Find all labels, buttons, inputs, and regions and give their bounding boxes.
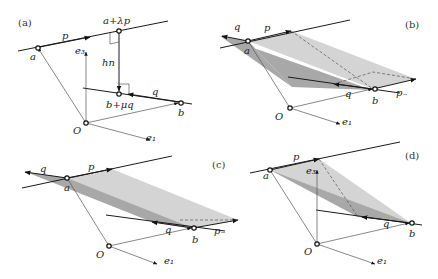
vector-ob [290,89,372,108]
label-p: p [88,161,95,172]
label-e3: e₃ [306,165,316,176]
label-a: a [263,170,269,181]
label-q: q [234,21,240,32]
panel-b: (b) q p a q b p₋ O e₁ [220,19,419,127]
label-b-mu-q: b+μq [106,99,134,110]
point-a-lambda-p [117,29,121,33]
label-e1: e₁ [377,255,387,266]
label-q2: q [165,224,171,235]
point-b [192,226,196,230]
label-a: a [64,182,70,193]
label-origin: O [96,249,104,260]
label-e3: e₃ [75,45,85,56]
e1-axis [109,246,157,264]
label-q: q [40,163,46,174]
point-a [246,39,250,43]
point-origin [107,244,111,248]
label-origin: O [73,125,81,136]
label-origin: O [304,246,312,257]
panel-d-label: (d) [405,150,419,161]
label-e1: e₁ [342,116,352,127]
label-e1: e₁ [146,132,156,143]
panel-c: (c) q p a q b p₋ O e₁ [22,156,238,266]
panel-c-label: (c) [212,159,226,170]
label-q2: q [345,88,351,99]
label-a: a [244,45,250,56]
label-p-minus: p₋ [396,87,408,98]
label-p-minus: p₋ [214,225,226,236]
vector-ob [317,223,409,244]
label-e1: e₁ [164,255,174,266]
label-q: q [383,218,389,229]
point-b [410,221,414,225]
label-p: p [62,30,69,41]
label-b: b [192,234,198,245]
point-b [179,101,183,105]
point-b-mu-q [117,92,121,96]
label-q: q [152,86,158,97]
e1-axis [290,108,340,124]
right-angle-top [110,33,119,44]
e1-axis [317,244,375,264]
panel-a: (a) p q e₃ hn a a+λp b+μq b O e₁ [18,15,192,143]
diagram-canvas: (a) p q e₃ hn a a+λp b+μq b O e₁ (b) [0,0,438,279]
panel-b-label: (b) [405,19,419,30]
label-b: b [178,107,184,118]
point-a [65,176,69,180]
point-origin [84,121,88,125]
point-origin [315,242,319,246]
label-p: p [293,151,300,162]
label-a: a [30,51,36,62]
label-a-lambda-p: a+λp [103,15,131,26]
point-origin [288,106,292,110]
label-b: b [409,228,415,239]
label-hn: hn [102,57,115,68]
panel-d: (d) p e₃ a q b O e₁ [250,142,422,266]
label-origin: O [275,111,283,122]
point-b [373,87,377,91]
e1-axis [86,123,150,140]
vector-ob [109,228,191,246]
vector-oa [38,48,86,123]
panel-a-label: (a) [18,17,32,28]
point-a [36,46,40,50]
label-b: b [372,95,378,106]
label-p: p [264,22,271,33]
